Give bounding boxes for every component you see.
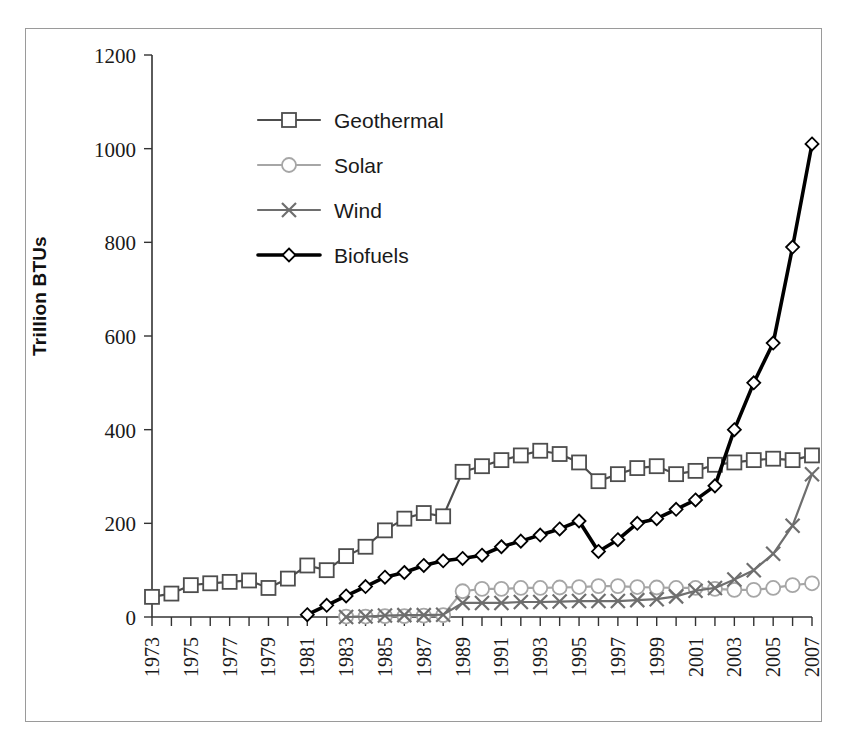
x-tick-label: 1997 bbox=[607, 637, 629, 677]
legend-item-solar[interactable]: Solar bbox=[258, 154, 383, 177]
x-tick-label: 2001 bbox=[685, 637, 707, 677]
axes-group bbox=[152, 55, 812, 617]
x-tick-label: 1987 bbox=[413, 637, 435, 677]
chart-svg: 020040060080010001200 197319751977197919… bbox=[0, 0, 845, 738]
x-tick-label: 1995 bbox=[568, 637, 590, 677]
x-tick-label: 1999 bbox=[646, 637, 668, 677]
x-tick-label: 1973 bbox=[141, 637, 163, 677]
chart-legend: GeothermalSolarWindBiofuels bbox=[258, 109, 444, 267]
x-tick-label: 2003 bbox=[723, 637, 745, 677]
series-wind bbox=[339, 467, 819, 624]
x-tick-label: 1983 bbox=[335, 637, 357, 677]
chart-figure: Trillion BTUs 020040060080010001200 1973… bbox=[0, 0, 845, 738]
x-tick-label: 1981 bbox=[296, 637, 318, 677]
legend-item-biofuels[interactable]: Biofuels bbox=[258, 244, 409, 267]
legend-item-geothermal[interactable]: Geothermal bbox=[258, 109, 444, 132]
legend-label: Solar bbox=[334, 154, 383, 177]
x-tick-label: 2005 bbox=[762, 637, 784, 677]
data-series-group bbox=[145, 137, 819, 624]
x-tick-label: 1991 bbox=[490, 637, 512, 677]
x-axis-ticks: 1973197519771979198119831985198719891991… bbox=[141, 617, 823, 677]
legend-label: Geothermal bbox=[334, 109, 444, 132]
series-geothermal bbox=[145, 444, 819, 604]
y-axis-ticks: 020040060080010001200 bbox=[94, 44, 152, 630]
x-tick-label: 1979 bbox=[257, 637, 279, 677]
legend-label: Wind bbox=[334, 199, 382, 222]
y-tick-label: 1000 bbox=[94, 138, 136, 162]
x-tick-label: 2007 bbox=[801, 637, 823, 677]
legend-label: Biofuels bbox=[334, 244, 409, 267]
x-tick-label: 1985 bbox=[374, 637, 396, 677]
x-tick-label: 1977 bbox=[219, 637, 241, 677]
y-tick-label: 1200 bbox=[94, 44, 136, 68]
y-tick-label: 400 bbox=[105, 419, 137, 443]
plot-area: 020040060080010001200 197319751977197919… bbox=[0, 0, 845, 738]
x-tick-label: 1989 bbox=[452, 637, 474, 677]
y-tick-label: 0 bbox=[126, 606, 137, 630]
x-tick-label: 1993 bbox=[529, 637, 551, 677]
y-tick-label: 600 bbox=[105, 325, 137, 349]
y-tick-label: 200 bbox=[105, 512, 137, 536]
legend-item-wind[interactable]: Wind bbox=[258, 199, 382, 222]
x-tick-label: 1975 bbox=[180, 637, 202, 677]
y-tick-label: 800 bbox=[105, 231, 137, 255]
